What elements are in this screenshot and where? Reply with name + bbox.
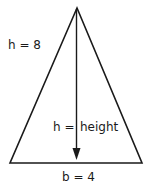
height-value-label: h = 8 bbox=[8, 38, 41, 52]
height-definition-left-label: h = bbox=[53, 120, 74, 134]
base-value-label: b = 4 bbox=[62, 170, 95, 184]
height-definition-right-label: height bbox=[80, 120, 119, 134]
triangle-diagram: h = 8 h = height b = 4 bbox=[0, 0, 150, 186]
height-arrowhead-icon bbox=[73, 148, 81, 160]
